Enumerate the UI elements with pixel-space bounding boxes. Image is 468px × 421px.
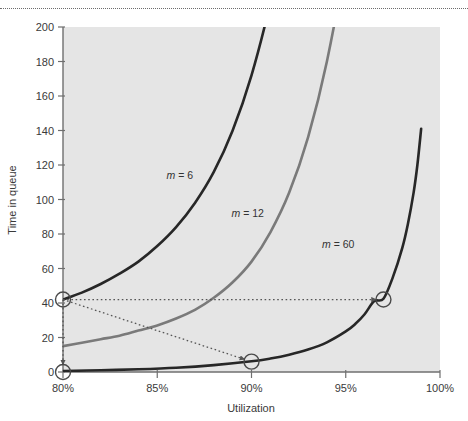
y-axis-title: Time in queue	[6, 165, 18, 234]
y-tick-label: 120	[36, 159, 54, 171]
x-tick-label: 80%	[52, 382, 74, 394]
series-label-m-12: m= 12	[231, 207, 264, 219]
x-axis-title: Utilization	[227, 402, 275, 414]
chart-figure: 020406080100120140160180200 80%85%90%95%…	[0, 0, 468, 421]
series-label-m-6: m= 6	[167, 169, 194, 181]
x-tick-label: 90%	[240, 382, 262, 394]
x-tick-label: 100%	[426, 382, 454, 394]
y-tick-label: 40	[42, 297, 54, 309]
y-tick-label: 20	[42, 332, 54, 344]
y-tick-label: 0	[48, 366, 54, 378]
x-axis-ticks-group: 80%85%90%95%100%	[52, 370, 454, 394]
x-tick-label: 85%	[146, 382, 168, 394]
y-tick-label: 200	[36, 21, 54, 33]
y-tick-label: 80	[42, 228, 54, 240]
y-tick-label: 180	[36, 56, 54, 68]
x-tick-label: 95%	[335, 382, 357, 394]
y-axis-ticks-group: 020406080100120140160180200	[36, 21, 65, 378]
series-label-m-60: m= 60	[322, 238, 355, 250]
chart-canvas: 020406080100120140160180200 80%85%90%95%…	[0, 0, 468, 421]
y-tick-label: 60	[42, 263, 54, 275]
y-tick-label: 160	[36, 90, 54, 102]
y-tick-label: 100	[36, 194, 54, 206]
y-tick-label: 140	[36, 125, 54, 137]
